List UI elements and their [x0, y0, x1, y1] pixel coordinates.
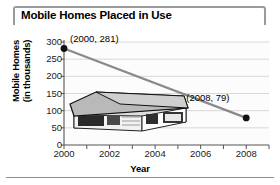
- mobile-home-illustration: [70, 92, 188, 131]
- annotation-2008: (2008, 79): [186, 92, 229, 103]
- chart-figure: Mobile Homes Placed in Use Mobile Homes …: [0, 0, 280, 185]
- footer-rule: [6, 177, 274, 178]
- x-tick-label-2008: 2008: [226, 148, 266, 159]
- x-tick-label-2002: 2002: [90, 148, 130, 159]
- y-tick-label-100: 100: [36, 105, 62, 116]
- x-tick-label-2000: 2000: [44, 148, 84, 159]
- data-point-2008: [243, 114, 250, 121]
- annotation-2000: (2000, 281): [70, 33, 119, 44]
- y-tick-label-250: 250: [36, 53, 62, 64]
- y-tick-label-50: 50: [36, 122, 62, 133]
- y-tick-label-200: 200: [36, 70, 62, 81]
- x-tick-label-2006: 2006: [181, 148, 221, 159]
- y-tick-label-150: 150: [36, 88, 62, 99]
- y-tick-label-300: 300: [36, 36, 62, 47]
- plot-area: 05010015020025030020002002200420062008(2…: [0, 0, 280, 185]
- x-tick-label-2004: 2004: [135, 148, 175, 159]
